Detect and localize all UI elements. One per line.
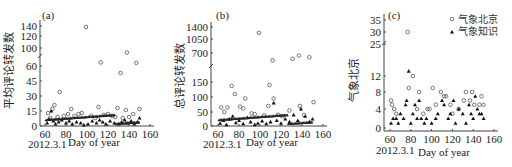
data-point — [482, 103, 486, 107]
y-tick-label: 100 — [192, 91, 209, 103]
y-tick-label: 45 — [26, 75, 38, 87]
data-point — [101, 120, 105, 124]
y-tick-label: 1050 — [186, 33, 209, 45]
panel-tag: (c) — [388, 9, 401, 22]
data-point — [417, 99, 421, 103]
data-point — [108, 119, 112, 123]
data-point — [234, 121, 238, 125]
legend-circle-icon — [450, 17, 454, 21]
series-triangle — [389, 69, 486, 125]
data-point — [138, 116, 142, 120]
x-axis-label: Day of year — [68, 136, 120, 148]
data-point — [298, 104, 302, 108]
data-point — [119, 71, 123, 75]
data-point — [288, 109, 292, 113]
data-point — [396, 121, 400, 125]
data-point — [312, 100, 316, 104]
legend-triangle-icon — [450, 30, 454, 34]
data-point — [233, 92, 237, 96]
data-point — [440, 99, 444, 103]
data-point — [257, 31, 261, 35]
data-point — [394, 112, 398, 116]
y-tick-label: 100 — [21, 42, 38, 54]
data-point — [473, 94, 477, 98]
data-point — [415, 107, 419, 111]
data-point — [279, 121, 283, 125]
data-point — [468, 99, 472, 103]
y-tick-label: 4 — [376, 103, 382, 115]
data-point — [462, 99, 466, 103]
data-point — [64, 121, 68, 125]
data-point — [291, 57, 295, 61]
data-point — [57, 120, 61, 124]
data-point — [45, 121, 49, 125]
data-point — [424, 117, 428, 121]
data-point — [449, 103, 453, 107]
data-point — [409, 121, 413, 125]
panel-a: 0153045601001201406080100120140160(a)平均评… — [2, 9, 159, 150]
data-point — [219, 106, 223, 110]
data-point — [461, 112, 465, 116]
y-tick-label: 0 — [32, 120, 38, 132]
x-axis-label: Day of year — [418, 146, 470, 158]
data-point — [97, 105, 101, 109]
data-point — [389, 121, 393, 125]
data-point — [464, 121, 468, 125]
data-point — [268, 83, 272, 87]
data-point — [226, 106, 230, 110]
data-point — [478, 103, 482, 107]
y-tick-label: 700 — [192, 47, 209, 59]
data-point — [480, 94, 484, 98]
data-point — [275, 118, 279, 122]
data-point — [398, 112, 402, 116]
data-point — [451, 99, 455, 103]
data-point — [303, 114, 307, 118]
y-tick-label: 150 — [192, 76, 209, 88]
data-point — [46, 111, 50, 115]
data-point — [66, 112, 70, 116]
y-tick-label: 8 — [376, 86, 382, 98]
data-point — [417, 90, 421, 94]
panel-tag: (a) — [42, 9, 55, 22]
series-circle — [389, 30, 485, 115]
data-point — [415, 117, 419, 121]
data-point — [475, 107, 479, 111]
data-point — [406, 30, 410, 34]
data-point — [82, 123, 86, 127]
data-point — [297, 54, 301, 58]
y-tick-label: 30 — [26, 90, 38, 102]
y-tick-label: 60 — [26, 60, 38, 72]
data-point — [413, 103, 417, 107]
data-point — [454, 121, 458, 125]
data-point — [56, 115, 60, 119]
data-point — [308, 55, 312, 59]
data-point — [260, 119, 264, 123]
data-point — [116, 106, 120, 110]
data-point — [241, 107, 245, 111]
y-axis-label: 总评论转发数 — [173, 43, 187, 109]
x-tick-label: 160 — [142, 128, 159, 140]
data-point — [421, 112, 425, 116]
data-point — [127, 115, 131, 119]
y-tick-label: 140 — [21, 20, 38, 32]
y-tick-label: 0 — [376, 122, 382, 134]
x-tick-label: 160 — [486, 133, 503, 145]
data-point — [422, 121, 426, 125]
data-point — [311, 117, 315, 121]
data-point — [390, 103, 394, 107]
data-point — [90, 119, 94, 123]
data-point — [292, 113, 296, 117]
y-axis-label: 气象北京 — [347, 58, 361, 102]
data-point — [389, 99, 393, 103]
data-point — [446, 117, 450, 121]
data-point — [79, 121, 83, 125]
start-date-label: 2012.3.1 — [28, 138, 67, 150]
data-point — [430, 121, 434, 125]
data-point — [244, 97, 248, 101]
data-point — [272, 97, 276, 101]
y-tick-label: 30 — [370, 26, 382, 38]
x-tick-label: 140 — [121, 128, 138, 140]
x-tick-label: 160 — [315, 128, 332, 140]
series-circle — [219, 31, 315, 118]
data-point — [271, 59, 275, 63]
